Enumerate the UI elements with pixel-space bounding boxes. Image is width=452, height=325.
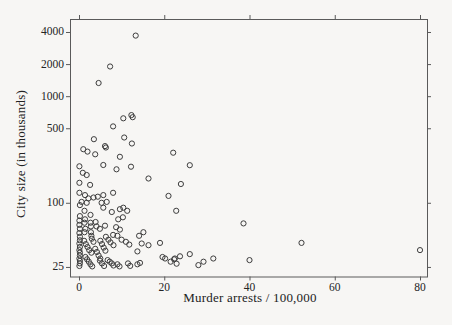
data-point <box>137 233 142 238</box>
data-point <box>171 150 176 155</box>
data-point <box>88 182 93 187</box>
data-point <box>178 181 183 186</box>
data-point <box>247 258 252 263</box>
data-point <box>128 164 133 169</box>
data-point <box>125 208 130 213</box>
x-tick-label: 80 <box>414 282 426 294</box>
data-point <box>108 64 113 69</box>
y-tick-label: 25 <box>0 261 64 273</box>
data-point <box>77 180 82 185</box>
data-point <box>104 199 109 204</box>
data-point <box>88 224 93 229</box>
data-point <box>196 263 201 268</box>
data-point <box>102 223 107 228</box>
data-point <box>135 249 140 254</box>
data-point <box>187 252 192 257</box>
data-point <box>101 162 106 167</box>
data-point <box>111 124 116 129</box>
y-tick-label: 2000 <box>0 59 64 71</box>
data-point <box>177 254 182 259</box>
x-tick-label: 40 <box>244 282 256 294</box>
scatter-plot-figure: City size (in thousands) Murder arrests … <box>0 0 452 325</box>
data-point <box>122 135 127 140</box>
data-point <box>114 225 119 230</box>
data-point <box>157 240 162 245</box>
data-point <box>133 33 138 38</box>
data-point <box>77 190 82 195</box>
data-point <box>96 80 101 85</box>
data-point <box>174 261 179 266</box>
data-point <box>187 163 192 168</box>
data-point <box>82 230 87 235</box>
data-point <box>114 167 119 172</box>
data-point <box>101 193 106 198</box>
data-point <box>101 205 106 210</box>
data-point <box>146 243 151 248</box>
data-point <box>85 149 90 154</box>
data-point <box>120 215 125 220</box>
x-tick-label: 20 <box>159 282 171 294</box>
x-tick-label: 60 <box>329 282 341 294</box>
data-point <box>146 176 151 181</box>
data-point <box>166 193 171 198</box>
data-point <box>117 154 122 159</box>
data-point <box>93 152 98 157</box>
data-point <box>91 137 96 142</box>
y-tick-label: 100 <box>0 197 64 209</box>
data-point <box>83 226 88 231</box>
data-point <box>299 240 304 245</box>
data-point <box>121 116 126 121</box>
data-point <box>123 239 128 244</box>
data-point <box>241 221 246 226</box>
plot-canvas <box>0 0 452 325</box>
data-point <box>88 212 93 217</box>
data-point <box>109 209 114 214</box>
data-point <box>82 220 87 225</box>
data-point <box>417 248 422 253</box>
data-point <box>211 256 216 261</box>
data-point <box>82 208 87 213</box>
y-tick-label: 4000 <box>0 26 64 38</box>
x-tick-label: 0 <box>76 282 82 294</box>
data-point <box>174 208 179 213</box>
y-tick-label: 1000 <box>0 91 64 103</box>
data-point <box>201 259 206 264</box>
data-point <box>129 141 134 146</box>
data-point <box>117 227 122 232</box>
data-point <box>77 164 82 169</box>
data-point <box>139 241 144 246</box>
data-point <box>111 190 116 195</box>
data-point <box>127 242 132 247</box>
y-tick-label: 500 <box>0 123 64 135</box>
